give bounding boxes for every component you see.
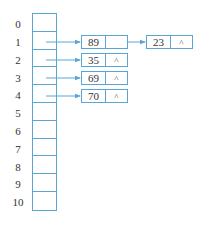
bucket-cell-3 bbox=[33, 67, 56, 85]
bucket-cell-6 bbox=[33, 121, 56, 139]
hash-table-diagram: 0 1 2 3 4 5 6 7 8 9 10 89 bbox=[0, 0, 212, 227]
index-label-0: 0 bbox=[8, 18, 28, 30]
bucket-cell-1 bbox=[33, 32, 56, 50]
list-node-69: 69 ^ bbox=[81, 71, 128, 85]
node-value: 35 bbox=[82, 54, 106, 66]
list-node-89: 89 bbox=[81, 35, 128, 49]
node-value: 89 bbox=[82, 36, 106, 48]
bucket-cell-4 bbox=[33, 85, 56, 103]
node-value: 69 bbox=[82, 72, 106, 84]
node-value: 70 bbox=[82, 90, 106, 102]
bucket-cell-2 bbox=[33, 50, 56, 68]
node-value: 23 bbox=[147, 36, 171, 48]
bucket-cell-10 bbox=[33, 192, 56, 210]
list-node-23: 23 ^ bbox=[146, 35, 193, 49]
null-pointer-icon: ^ bbox=[106, 90, 127, 102]
index-label-3: 3 bbox=[8, 72, 28, 84]
node-next-pointer bbox=[106, 36, 127, 48]
index-label-5: 5 bbox=[8, 107, 28, 119]
index-label-6: 6 bbox=[8, 125, 28, 137]
bucket-cell-8 bbox=[33, 156, 56, 174]
list-node-70: 70 ^ bbox=[81, 89, 128, 103]
index-label-9: 9 bbox=[8, 178, 28, 190]
index-label-8: 8 bbox=[8, 161, 28, 173]
index-label-2: 2 bbox=[8, 54, 28, 66]
index-label-1: 1 bbox=[8, 36, 28, 48]
bucket-cell-5 bbox=[33, 103, 56, 121]
bucket-array bbox=[32, 13, 57, 211]
null-pointer-icon: ^ bbox=[106, 54, 127, 66]
list-node-35: 35 ^ bbox=[81, 53, 128, 67]
index-label-7: 7 bbox=[8, 143, 28, 155]
null-pointer-icon: ^ bbox=[171, 36, 192, 48]
bucket-cell-0 bbox=[33, 14, 56, 32]
bucket-cell-7 bbox=[33, 139, 56, 157]
null-pointer-icon: ^ bbox=[106, 72, 127, 84]
index-label-10: 10 bbox=[8, 196, 28, 208]
index-label-4: 4 bbox=[8, 89, 28, 101]
bucket-cell-9 bbox=[33, 174, 56, 192]
